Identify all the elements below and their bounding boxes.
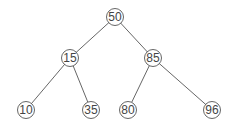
node-label: 15: [63, 51, 77, 65]
node-label: 10: [19, 103, 33, 117]
node-label: 96: [205, 103, 219, 117]
tree-node-96: 96: [204, 102, 221, 119]
edges-group: [26, 17, 212, 110]
tree-node-80: 80: [120, 102, 137, 119]
tree-node-85: 85: [145, 50, 162, 67]
tree-node-15: 15: [62, 50, 79, 67]
edge-15-10: [26, 58, 70, 110]
node-label: 35: [84, 103, 98, 117]
tree-svg: 50158510358096: [0, 0, 232, 131]
nodes-group: 50158510358096: [18, 9, 221, 119]
tree-node-35: 35: [83, 102, 100, 119]
node-label: 85: [146, 51, 160, 65]
edge-85-96: [153, 58, 212, 110]
tree-diagram: 50158510358096: [0, 0, 232, 131]
node-label: 80: [121, 103, 135, 117]
tree-node-10: 10: [18, 102, 35, 119]
node-label: 50: [108, 10, 122, 24]
tree-node-50: 50: [107, 9, 124, 26]
